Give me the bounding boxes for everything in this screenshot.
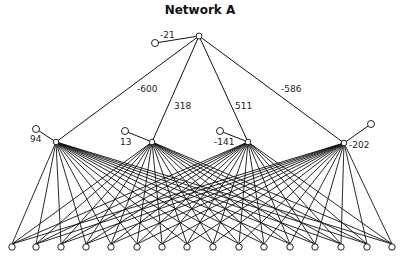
input-node-15 bbox=[364, 244, 370, 250]
bias-edges bbox=[36, 36, 371, 143]
edge-hidden-4-input-13 bbox=[315, 143, 344, 244]
input-node-16 bbox=[389, 244, 395, 250]
bias-label-hidden-4: -202 bbox=[349, 140, 369, 150]
input-node-9 bbox=[210, 244, 216, 250]
input-node-13 bbox=[312, 244, 318, 250]
input-node-12 bbox=[287, 244, 293, 250]
input-node-6 bbox=[134, 244, 140, 250]
hidden-bias-node-1 bbox=[33, 126, 40, 133]
input-node-11 bbox=[261, 244, 267, 250]
output-bias-label: -21 bbox=[160, 30, 175, 40]
hidden-bias-node-3 bbox=[217, 128, 224, 135]
edge-hidden-3-input-9 bbox=[213, 142, 248, 244]
weight-label-hidden-1: -600 bbox=[137, 84, 157, 94]
input-node-8 bbox=[184, 244, 190, 250]
input-node-4 bbox=[83, 244, 89, 250]
input-hidden-edges bbox=[12, 142, 392, 244]
input-node-2 bbox=[33, 244, 39, 250]
weight-label-hidden-4: -586 bbox=[281, 84, 301, 94]
hidden-node-2 bbox=[149, 139, 155, 145]
edge-hidden-4-input-3 bbox=[61, 143, 344, 244]
output-node bbox=[196, 33, 202, 39]
edge-hidden-4-input-11 bbox=[264, 143, 344, 244]
weight-label-hidden-2: 318 bbox=[174, 101, 191, 111]
hidden-node-1 bbox=[53, 139, 59, 145]
input-node-5 bbox=[108, 244, 114, 250]
input-node-7 bbox=[159, 244, 165, 250]
edge-hidden-2-input-6 bbox=[137, 142, 152, 244]
edge-hidden-3-input-3 bbox=[61, 142, 248, 244]
edge-hidden-2-input-15 bbox=[152, 142, 367, 244]
edge-hidden-4-input-16 bbox=[344, 143, 392, 244]
network-diagram bbox=[0, 0, 407, 258]
input-node-3 bbox=[58, 244, 64, 250]
edge-hidden-2-input-10 bbox=[152, 142, 239, 244]
bias-label-hidden-2: 13 bbox=[120, 137, 131, 147]
hidden-node-4 bbox=[341, 140, 347, 146]
input-node-1 bbox=[9, 244, 15, 250]
hidden-bias-node-4 bbox=[368, 121, 375, 128]
weight-label-hidden-3: 511 bbox=[235, 101, 252, 111]
edge-hidden-4-output bbox=[199, 36, 344, 143]
edge-hidden-1-input-1 bbox=[12, 142, 56, 244]
bias-label-hidden-3: -141 bbox=[214, 137, 234, 147]
edge-hidden-2-input-16 bbox=[152, 142, 392, 244]
hidden-bias-node-2 bbox=[122, 128, 129, 135]
input-node-10 bbox=[236, 244, 242, 250]
diagram-title: Network A bbox=[0, 3, 400, 17]
output-bias-node bbox=[152, 40, 159, 47]
edge-hidden-2-output bbox=[152, 36, 199, 142]
edge-hidden-3-output bbox=[199, 36, 248, 142]
edge-hidden-1-output bbox=[56, 36, 199, 142]
input-node-14 bbox=[338, 244, 344, 250]
bias-label-hidden-1: 94 bbox=[30, 134, 41, 144]
nodes bbox=[9, 33, 395, 250]
hidden-node-3 bbox=[245, 139, 251, 145]
edge-hidden-4-input-9 bbox=[213, 143, 344, 244]
